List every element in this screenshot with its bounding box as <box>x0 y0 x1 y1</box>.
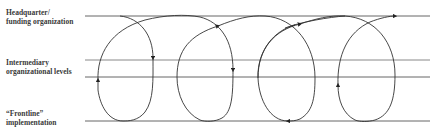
loop-3-segment-c <box>285 16 345 28</box>
loop-2-segment-a <box>98 15 233 80</box>
loop-4-segment-c <box>338 16 395 85</box>
loop-curve <box>98 15 395 121</box>
level-lines <box>85 16 430 121</box>
loop-1-segment-a <box>120 16 153 58</box>
loop-diagram <box>0 0 445 132</box>
loop-3-segment-b <box>258 25 295 121</box>
loop-1-segment-b <box>98 58 153 121</box>
loop-2-segment-b <box>177 26 233 121</box>
